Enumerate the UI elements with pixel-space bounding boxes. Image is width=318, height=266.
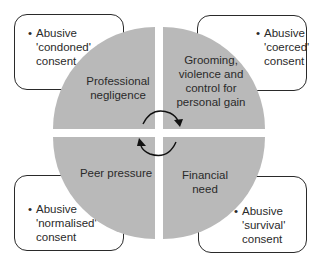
label-line: personal gain bbox=[166, 95, 256, 109]
quadrant-label-top-right: Grooming, violence and control for perso… bbox=[166, 53, 256, 109]
label-line: Grooming, bbox=[166, 53, 256, 67]
quadrant-label-bottom-right: Financial need bbox=[175, 168, 235, 196]
quadrant-bottom-left bbox=[53, 137, 155, 239]
label-line: violence and bbox=[166, 67, 256, 81]
label-line: Professional bbox=[78, 74, 158, 88]
quadrant-label-bottom-left: Peer pressure bbox=[76, 166, 156, 180]
label-line: negligence bbox=[78, 88, 158, 102]
quadrant-label-top-left: Professional negligence bbox=[78, 74, 158, 102]
label-line: need bbox=[175, 182, 235, 196]
label-line: Peer pressure bbox=[76, 166, 156, 180]
quadrant-circle bbox=[0, 0, 318, 266]
label-line: control for bbox=[166, 81, 256, 95]
label-line: Financial bbox=[175, 168, 235, 182]
